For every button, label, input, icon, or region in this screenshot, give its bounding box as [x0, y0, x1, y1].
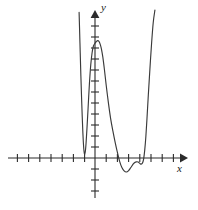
graph-figure: x y	[0, 0, 198, 210]
function-curve	[79, 10, 155, 172]
x-axis-group	[8, 154, 188, 163]
x-axis-label: x	[177, 163, 182, 174]
y-axis-arrow-icon	[91, 10, 100, 18]
y-axis-group	[91, 10, 100, 198]
y-axis-label: y	[101, 2, 106, 13]
plot-canvas	[0, 0, 198, 210]
